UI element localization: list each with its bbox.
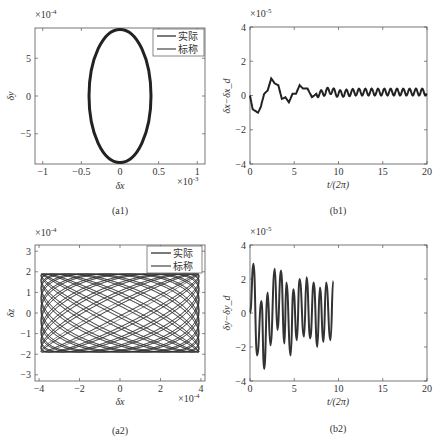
caption: (a1) [112,205,128,217]
y-axis-label: δz [5,309,16,318]
panel-a1: −1−0.500.5150−5 实际 标称 ×10-4 ×10-3 δx δy … [5,8,205,217]
svg-text:20: 20 [422,166,432,177]
svg-text:−2: −2 [235,124,246,135]
y-exponent: ×10-4 [35,226,57,238]
svg-text:15: 15 [378,383,388,394]
svg-text:0: 0 [26,91,31,102]
legend-actual: 实际 [178,30,198,42]
svg-text:10: 10 [334,383,344,394]
svg-text:5: 5 [26,53,31,64]
caption: (b1) [330,205,347,217]
legend: 实际 标称 [153,29,204,56]
svg-text:15: 15 [378,166,388,177]
legend-nominal: 标称 [178,43,198,55]
legend-actual: 实际 [173,247,193,259]
svg-text:0: 0 [248,383,253,394]
svg-text:2: 2 [158,383,163,394]
svg-text:0: 0 [241,308,246,319]
ellipse-trajectory [89,30,151,163]
svg-text:−5: −5 [20,128,31,139]
svg-text:10: 10 [334,166,344,177]
svg-text:5: 5 [292,166,297,177]
caption: (a2) [112,425,128,437]
y-exponent: ×10-5 [250,225,272,237]
svg-text:−1: −1 [37,166,48,177]
svg-text:0: 0 [118,383,123,394]
y-axis-label: δy−δy_d [221,295,232,331]
svg-text:0.5: 0.5 [152,166,165,177]
svg-text:0: 0 [118,166,123,177]
error-curve [250,78,427,112]
svg-text:1: 1 [26,287,31,298]
svg-text:0: 0 [241,90,246,101]
x-exponent: ×10-3 [177,175,199,187]
svg-text:2: 2 [26,266,31,277]
caption: (b2) [330,423,347,435]
svg-text:−4: −4 [235,159,246,170]
svg-text:−2: −2 [74,383,85,394]
panel-b2: 05101520420−2−4 ×10-5 t/(2π) δy−δy_d (b2… [221,225,432,435]
x-exponent: ×10-4 [178,392,200,404]
panel-b1: 05101520420−2−4 ×10-5 t/(2π) δx−δx_d (b1… [221,7,432,217]
svg-text:−3: −3 [20,369,31,380]
legend: 实际 标称 [147,246,202,273]
x-axis-label: δx [115,396,125,407]
svg-text:2: 2 [241,56,246,67]
svg-text:3: 3 [26,246,31,257]
svg-text:4: 4 [241,22,246,33]
figure-canvas: −1−0.500.5150−5 实际 标称 ×10-4 ×10-3 δx δy … [0,0,445,444]
legend-nominal: 标称 [173,260,193,272]
svg-text:20: 20 [422,383,432,394]
svg-text:−2: −2 [20,349,31,360]
svg-text:−1: −1 [20,328,31,339]
svg-text:5: 5 [292,383,297,394]
svg-text:4: 4 [241,240,246,251]
y-axis-label: δy [5,91,16,101]
svg-text:−4: −4 [235,376,246,387]
axis-ticks: 05101520420−2−4 [235,22,432,178]
error-curve [250,264,333,369]
svg-text:2: 2 [241,274,246,285]
svg-text:−4: −4 [34,383,45,394]
panel-a2: −4−20243210−1−2−3 实际 标称 ×10-4 ×10-4 δx δ… [5,226,205,437]
svg-text:−0.5: −0.5 [72,166,90,177]
axis-ticks: 05101520420−2−4 [235,240,432,395]
svg-text:0: 0 [26,308,31,319]
y-exponent: ×10-4 [35,8,57,20]
x-axis-label: t/(2π) [327,396,350,408]
y-exponent: ×10-5 [250,7,272,19]
svg-text:0: 0 [248,166,253,177]
svg-text:−2: −2 [235,342,246,353]
lissajous-trajectory [41,274,199,352]
x-axis-label: δx [115,180,125,191]
x-axis-label: t/(2π) [327,179,350,191]
y-axis-label: δx−δx_d [221,78,232,114]
